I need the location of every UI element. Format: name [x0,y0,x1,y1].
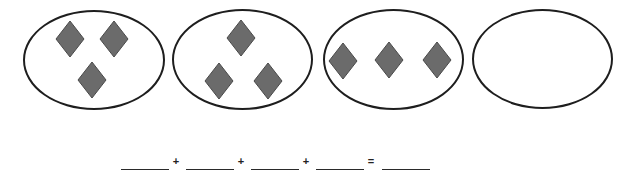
diamond-icon [422,41,452,79]
answer-blank-1[interactable] [121,169,169,170]
repeated-addition-worksheet: +++= [0,0,634,181]
diamond-icon [204,62,234,100]
plus-sign: + [171,155,181,167]
plus-sign: + [236,155,246,167]
plus-sign: + [301,155,311,167]
group-ellipse-4 [472,9,613,109]
diamond-icon [99,20,129,58]
diamond-icon [328,42,358,80]
diamond-icon [226,19,256,57]
diamond-icon [55,20,85,58]
answer-blank-2[interactable] [186,169,234,170]
answer-blank-4[interactable] [316,169,364,170]
diamond-icon [374,41,404,79]
diamond-icon [77,61,107,99]
answer-blank-5[interactable] [382,169,430,170]
equals-sign: = [366,155,376,167]
answer-blank-3[interactable] [251,169,299,170]
diamond-icon [253,62,283,100]
